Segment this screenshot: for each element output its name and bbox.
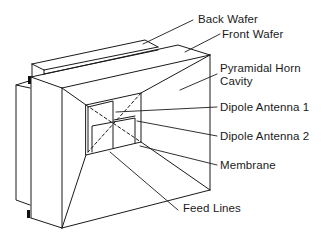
- front-wafer-front-top: [62, 55, 210, 88]
- label-feed-lines: Feed Lines: [183, 202, 241, 215]
- leader-horn-cavity: [180, 74, 217, 90]
- rear-box-outline: [16, 81, 30, 205]
- label-pyramidal-horn-cavity: Pyramidal Horn Cavity: [220, 62, 301, 88]
- back-wafer-front-edge: [32, 64, 44, 70]
- front-wafer-side-bottom: [31, 218, 62, 228]
- leader-dipole-2: [137, 121, 217, 136]
- leader-back-wafer: [143, 20, 193, 44]
- leader-lines: [110, 20, 220, 210]
- label-dipole-antenna-1: Dipole Antenna 1: [220, 101, 309, 114]
- leader-dipole-1: [116, 107, 217, 112]
- leader-front-wafer: [185, 34, 220, 52]
- label-front-wafer: Front Wafer: [222, 28, 283, 41]
- rear-box-inner-edge: [16, 85, 30, 88]
- back-wafer-top-edge: [32, 40, 158, 64]
- leader-membrane: [140, 146, 217, 165]
- front-wafer-shape: [31, 45, 210, 228]
- label-dipole-antenna-2: Dipole Antenna 2: [220, 130, 309, 143]
- alignment-mark-bottom: [27, 210, 30, 218]
- horn-edge-top-left: [62, 88, 86, 105]
- label-membrane: Membrane: [220, 159, 276, 172]
- back-wafer-lower-edge: [44, 47, 158, 70]
- back-wafer-body: [16, 76, 31, 218]
- dashed-diagonal-2: [88, 93, 141, 152]
- back-wafer-shape: [32, 40, 158, 77]
- horn-edge-top-right: [141, 55, 210, 93]
- label-back-wafer: Back Wafer: [198, 13, 258, 26]
- front-wafer-side-top: [31, 77, 62, 88]
- horn-edge-bottom-left: [62, 155, 86, 228]
